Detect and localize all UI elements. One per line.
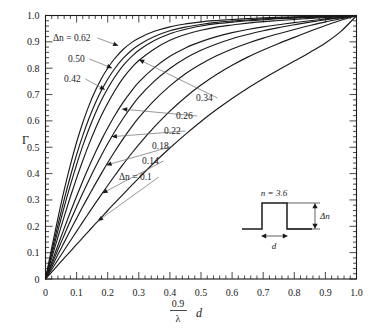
annotation-arrowhead xyxy=(122,107,128,112)
data-curve-0.1 xyxy=(46,16,357,279)
data-curve-0.22 xyxy=(46,16,357,279)
inset-n-label: n = 3.6 xyxy=(261,188,288,198)
y-tick-label: 0.9 xyxy=(27,36,40,47)
data-curve-0.14 xyxy=(46,16,357,279)
chart-figure: Δn = 0.620.500.420.340.260.220.180.14Δn … xyxy=(0,0,383,331)
refractive-index-confinement-chart: Δn = 0.620.500.420.340.260.220.180.14Δn … xyxy=(0,0,383,331)
data-curve-0.18 xyxy=(46,16,357,279)
curve-annotation-label: 0.26 xyxy=(176,111,193,121)
x-tick-label: 0.5 xyxy=(195,287,208,298)
y-tick-label: 0.1 xyxy=(27,247,40,258)
data-curve-0.34 xyxy=(46,16,357,279)
plot-frame xyxy=(46,16,357,280)
inset-index-profile: Δn d n = 3.6 xyxy=(242,188,330,251)
x-axis-title-variable: d xyxy=(196,306,203,320)
inset-d-arrowhead-left xyxy=(261,233,266,238)
curve-annotation-label: 0.42 xyxy=(64,74,81,84)
y-tick-label: 0.3 xyxy=(27,194,40,205)
x-tick-label: 0.4 xyxy=(164,287,177,298)
annotation-leader-line xyxy=(85,79,100,87)
curve-annotation-label: 0.22 xyxy=(164,126,181,136)
y-tick-label: 0.6 xyxy=(27,115,40,126)
y-axis-title: Γ xyxy=(22,133,29,147)
y-tick-label: 0.4 xyxy=(27,168,40,179)
x-tick-label: 0.6 xyxy=(226,287,239,298)
x-tick-label: 0.9 xyxy=(319,287,332,298)
x-tick-label: 0 xyxy=(43,287,48,298)
x-axis-title: 0.9 λ d xyxy=(170,298,203,324)
x-tick-label: 0.7 xyxy=(257,287,270,298)
inset-d-arrowhead-right xyxy=(283,233,288,238)
annotation-arrowhead xyxy=(113,42,119,46)
curve-annotation-label: 0.34 xyxy=(196,93,213,103)
x-tick-label: 0.8 xyxy=(288,287,301,298)
x-tick-label: 0.2 xyxy=(101,287,114,298)
data-curve-0.62 xyxy=(46,16,357,279)
inset-d-label: d xyxy=(272,241,277,251)
annotation-arrowhead xyxy=(106,64,112,68)
curve-annotation-label: 0.18 xyxy=(152,141,169,151)
curve-annotation-label: Δn = 0.62 xyxy=(53,33,91,43)
x-tick-label: 0.1 xyxy=(70,287,83,298)
curve-annotation-label: 0.50 xyxy=(68,54,85,64)
y-tick-label: 0.8 xyxy=(27,63,40,74)
y-tick-label: 0.7 xyxy=(27,89,40,100)
x-tick-label: 1.0 xyxy=(350,287,363,298)
x-axis-title-denominator: λ xyxy=(176,313,181,324)
data-curve-0.26 xyxy=(46,16,357,279)
annotation-leader-line xyxy=(102,177,159,218)
x-tick-label: 0.3 xyxy=(133,287,146,298)
data-curve-0.50 xyxy=(46,16,357,279)
inset-delta-n-arrowhead-up xyxy=(312,203,317,208)
axis-tick-marks xyxy=(46,16,357,280)
x-axis-title-numerator: 0.9 xyxy=(172,298,185,309)
curve-group xyxy=(46,16,357,279)
inset-delta-n-arrowhead-down xyxy=(312,224,317,229)
annotation-leader-line xyxy=(89,59,107,66)
curve-annotation-label: 0.14 xyxy=(142,156,159,166)
curve-annotation-label: Δn = 0.1 xyxy=(119,172,152,182)
x-tick-label-group: 00.10.20.30.40.50.60.70.80.91.0 xyxy=(43,287,363,298)
y-tick-label: 1.0 xyxy=(27,10,40,21)
y-tick-label: 0 xyxy=(35,274,40,285)
y-tick-label: 0.2 xyxy=(27,221,40,232)
y-tick-label-group: 00.10.20.30.40.50.60.70.80.91.0 xyxy=(27,10,40,285)
inset-step-profile xyxy=(242,203,312,229)
data-curve-0.42 xyxy=(46,16,357,279)
inset-delta-n-label: Δn xyxy=(319,211,330,221)
annotation-leader-line xyxy=(97,38,113,44)
